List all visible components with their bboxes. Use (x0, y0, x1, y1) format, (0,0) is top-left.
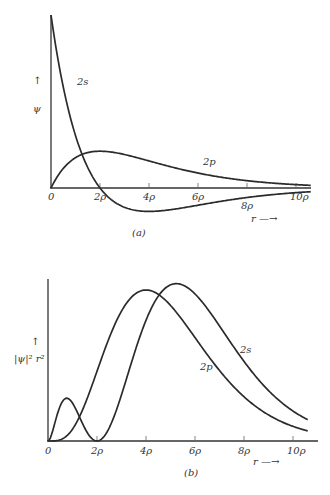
x-tick-label: 0 (45, 445, 52, 456)
x-tick-label: 4ρ (139, 445, 152, 456)
caption-b: (b) (184, 467, 198, 478)
caption-a: (a) (132, 227, 146, 238)
panel-a: 02ρ4ρ6ρ8ρ10ρ 2s 2p ↑ ψ r —→ (a) (33, 15, 311, 238)
x-tick-label: 4ρ (142, 191, 155, 202)
label-2s-b: 2s (239, 344, 252, 355)
curve-2p-radial-probability (48, 290, 308, 441)
curve-2p-wavefunction (51, 151, 311, 188)
y-axis-label-a: ψ (33, 103, 41, 114)
figure: 02ρ4ρ6ρ8ρ10ρ 2s 2p ↑ ψ r —→ (a) 02ρ4ρ6ρ8… (0, 0, 330, 495)
panel-b: 02ρ4ρ6ρ8ρ10ρ 2s 2p ↑ |ψ|² r² r —→ (b) (14, 279, 318, 478)
x-tick-label: 0 (48, 191, 55, 202)
y-arrow-a: ↑ (33, 75, 41, 86)
x-tick-label: 2ρ (90, 445, 103, 456)
label-2s-a: 2s (76, 76, 89, 87)
x-tick-label: 6ρ (192, 191, 204, 202)
curve-2s-radial-probability (48, 284, 308, 441)
label-2p-b: 2p (199, 361, 213, 372)
x-ticks-a: 02ρ4ρ6ρ8ρ10ρ (48, 183, 309, 211)
x-ticks-b: 02ρ4ρ6ρ8ρ10ρ (45, 436, 306, 456)
curve-2s-wavefunction (51, 15, 311, 211)
x-tick-label: 10ρ (287, 445, 306, 456)
x-tick-label: 6ρ (189, 445, 201, 456)
x-axis-label-b: r —→ (253, 456, 280, 467)
x-axis-label-a: r —→ (251, 213, 278, 224)
y-axis-label-b: |ψ|² r² (14, 353, 45, 365)
x-tick-label: 8ρ (241, 200, 253, 211)
label-2p-a: 2p (202, 156, 216, 167)
y-arrow-b: ↑ (31, 336, 39, 347)
x-tick-label: 8ρ (238, 445, 250, 456)
